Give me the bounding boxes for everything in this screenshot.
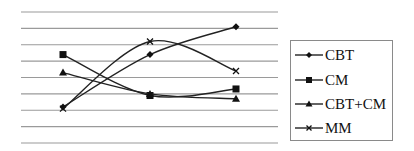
square-marker-icon	[60, 51, 67, 58]
legend-label: CM	[325, 71, 348, 89]
legend-item-mm: MM	[295, 119, 352, 137]
gridlines	[21, 12, 278, 143]
x-marker-icon	[233, 68, 239, 74]
legend-item-cbt: CBT	[295, 46, 354, 64]
triangle-marker-icon	[59, 69, 67, 76]
legend-label: CBT	[325, 46, 354, 64]
legend-item-cbt-cm: CBT+CM	[295, 95, 386, 113]
diamond-marker-icon	[295, 48, 323, 62]
diamond-marker-icon	[147, 51, 154, 58]
legend-label: MM	[325, 119, 352, 137]
square-marker-icon	[233, 85, 240, 92]
legend-item-cm: CM	[295, 71, 348, 89]
square-marker-icon	[295, 73, 323, 87]
x-marker-icon	[295, 121, 323, 135]
series-lines	[59, 23, 240, 111]
diamond-marker-icon	[233, 23, 240, 30]
legend-label: CBT+CM	[325, 95, 386, 113]
legend: CBT CM CBT+CM MM	[290, 40, 393, 141]
triangle-marker-icon	[295, 97, 323, 111]
